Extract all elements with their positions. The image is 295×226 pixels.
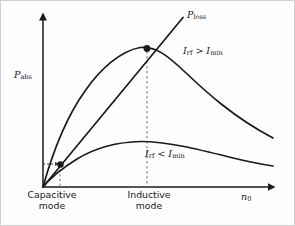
figure-container: Ploss Pabs Irf > Imin Irf < Imin n0 Capa… <box>0 0 295 226</box>
pabs-subscript: abs <box>20 73 32 81</box>
low-imin-subscript: min <box>172 152 185 160</box>
ploss-subscript: loss <box>193 13 206 21</box>
inductive-line-2: mode <box>108 201 190 212</box>
curve-high-current <box>43 47 273 187</box>
high-relation: > <box>192 45 206 56</box>
marker-lower-intersection <box>57 161 63 167</box>
high-current-annotation: Irf > Imin <box>183 46 223 57</box>
marker-upper-intersection <box>144 45 151 52</box>
low-current-annotation: Irf < Imin <box>145 149 185 160</box>
n0-subscript: 0 <box>247 195 251 203</box>
high-imin-subscript: min <box>210 49 223 57</box>
low-relation: < <box>154 148 168 159</box>
x-tick-inductive-mode: Inductive mode <box>108 190 190 212</box>
y-axis-label: Pabs <box>14 70 32 81</box>
x-tick-capacitive-mode: Capacitive mode <box>9 190 95 212</box>
line-ploss <box>43 18 183 188</box>
x-axis-label: n0 <box>241 192 251 203</box>
capacitive-line-2: mode <box>9 201 95 212</box>
ploss-label: Ploss <box>187 10 206 21</box>
